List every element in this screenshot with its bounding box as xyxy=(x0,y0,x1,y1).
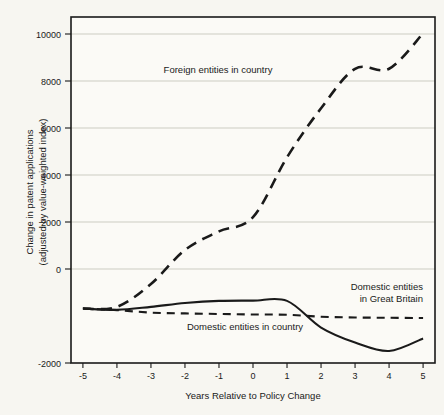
x-tick-label-5: 5 xyxy=(421,371,426,381)
x-tick-label-2: 2 xyxy=(319,371,324,381)
y-tick-label-10000: 10000 xyxy=(36,30,61,40)
y-tick-label-8000: 8000 xyxy=(41,77,61,87)
annotation-foreign-entities: Foreign entities in country xyxy=(164,64,273,75)
x-axis-title: Years Relative to Policy Change xyxy=(185,390,320,401)
x-tick-label--5: -5 xyxy=(79,371,87,381)
chart-canvas: 10000 8000 6000 4000 2000 0 -2000 -5-4-3… xyxy=(0,0,444,415)
x-tick-label-3: 3 xyxy=(353,371,358,381)
x-tick-label-1: 1 xyxy=(285,371,290,381)
chart-figure: 10000 8000 6000 4000 2000 0 -2000 -5-4-3… xyxy=(0,0,444,415)
x-tick-label--2: -2 xyxy=(181,371,189,381)
annotation-domestic-entities-country: Domestic entities in country xyxy=(187,321,303,332)
y-tick-label-neg2000: -2000 xyxy=(38,359,61,369)
x-tick-label--3: -3 xyxy=(147,371,155,381)
y-tick-label-0: 0 xyxy=(56,265,61,275)
x-tick-label--4: -4 xyxy=(113,371,121,381)
x-tick-label-4: 4 xyxy=(387,371,392,381)
annotation-domestic-entities-gb-line2: in Great Britain xyxy=(360,293,423,304)
annotation-domestic-entities-gb-line1: Domestic entities xyxy=(351,281,424,292)
y-axis-title-line2: (adjusted by value-weighted index) xyxy=(37,119,48,266)
y-axis-title-line1: Change in patent applications xyxy=(24,129,35,254)
x-tick-label--1: -1 xyxy=(215,371,223,381)
x-tick-label-0: 0 xyxy=(250,371,255,381)
